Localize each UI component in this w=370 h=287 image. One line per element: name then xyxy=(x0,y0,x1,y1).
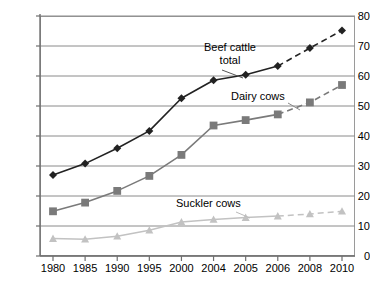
data-point-dairy-1995 xyxy=(145,172,153,180)
x-tick-label-2000: 2000 xyxy=(169,262,193,274)
x-tick-label-1990: 1990 xyxy=(105,262,129,274)
x-tick-label-2008: 2008 xyxy=(298,262,322,274)
x-tick-label-1995: 1995 xyxy=(137,262,161,274)
data-point-dairy-2010 xyxy=(338,81,346,89)
y-tick-label-20: 20 xyxy=(338,191,370,202)
data-point-beef-2008 xyxy=(306,44,314,52)
y-tick-label-10: 10 xyxy=(338,221,370,232)
line-chart: 01020304050607080 1980198519901995200020… xyxy=(0,0,370,287)
y-tick-label-80: 80 xyxy=(338,11,370,22)
data-point-dairy-2000 xyxy=(178,151,186,159)
data-point-beef-2006 xyxy=(274,62,282,70)
x-tick-label-2006: 2006 xyxy=(266,262,290,274)
data-point-beef-1980 xyxy=(49,171,57,179)
data-point-beef-1990 xyxy=(113,144,121,152)
x-tick-label-1980: 1980 xyxy=(41,262,65,274)
x-tick-label-2005: 2005 xyxy=(233,262,257,274)
y-tick-label-70: 70 xyxy=(338,41,370,52)
y-tick-label-50: 50 xyxy=(338,101,370,112)
chart-canvas xyxy=(0,0,370,287)
series-label-suckler-cows: Suckler cows xyxy=(176,197,241,210)
series-label-beef-line2: total xyxy=(220,54,241,66)
data-point-dairy-1980 xyxy=(49,207,57,215)
y-tick-label-60: 60 xyxy=(338,71,370,82)
x-tick-label-2004: 2004 xyxy=(201,262,225,274)
data-point-dairy-2004 xyxy=(210,122,218,130)
x-tick-label-1985: 1985 xyxy=(73,262,97,274)
y-tick-label-0: 0 xyxy=(338,251,370,262)
data-point-dairy-2006 xyxy=(274,111,282,119)
series-label-beef-cattle-total: Beef cattle total xyxy=(187,41,273,66)
y-tick-label-30: 30 xyxy=(338,161,370,172)
data-point-dairy-1985 xyxy=(81,199,89,207)
x-tick-label-2010: 2010 xyxy=(330,262,354,274)
data-point-beef-2004 xyxy=(210,76,218,84)
data-point-dairy-2005 xyxy=(242,116,250,124)
data-point-dairy-2008 xyxy=(306,99,314,107)
series-label-beef-line1: Beef cattle xyxy=(204,41,256,53)
series-label-dairy-cows: Dairy cows xyxy=(231,90,285,103)
data-point-dairy-1990 xyxy=(113,187,121,195)
y-tick-label-40: 40 xyxy=(338,131,370,142)
data-point-beef-2010 xyxy=(338,26,346,34)
